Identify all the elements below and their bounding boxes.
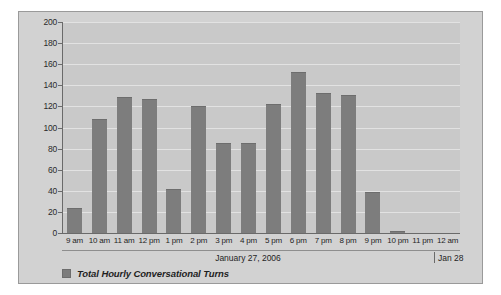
bar[interactable]	[166, 189, 181, 233]
bar-slot	[186, 22, 211, 233]
bar-slot	[410, 22, 435, 233]
bar[interactable]	[316, 93, 331, 233]
y-axis-tick	[58, 22, 62, 23]
x-axis-tick-label: 3 pm	[211, 236, 236, 245]
x-axis-tick-label: 7 pm	[311, 236, 336, 245]
y-axis-tick	[58, 128, 62, 129]
date-axis-rule	[62, 250, 460, 251]
x-axis-tick-label: 10 pm	[385, 236, 410, 245]
y-axis-tick	[58, 170, 62, 171]
x-axis-tick-label: 1 pm	[162, 236, 187, 245]
y-axis-labels: 020406080100120140160180200	[19, 22, 57, 234]
x-axis-tick-label: 12 pm	[137, 236, 162, 245]
bar-slot	[62, 22, 87, 233]
y-axis-tick-label: 160	[43, 59, 57, 69]
bar-slot	[87, 22, 112, 233]
y-axis-tick-label: 20	[48, 207, 57, 217]
y-axis-tick	[58, 233, 62, 234]
x-axis-tick-label: 8 pm	[336, 236, 361, 245]
bar-slot	[286, 22, 311, 233]
chart-panel: 020406080100120140160180200 9 am10 am11 …	[18, 11, 483, 284]
bar[interactable]	[241, 143, 256, 233]
x-axis-tick-label: 10 am	[87, 236, 112, 245]
bar[interactable]	[365, 192, 380, 233]
bar-slot	[435, 22, 460, 233]
x-axis-tick-label: 2 pm	[186, 236, 211, 245]
bar-slot	[162, 22, 187, 233]
date-axis: January 27, 2006 Jan 28	[62, 250, 460, 266]
bar-slot	[385, 22, 410, 233]
bar[interactable]	[67, 208, 82, 233]
y-axis-tick-label: 120	[43, 101, 57, 111]
y-axis-tick	[58, 85, 62, 86]
y-axis-tick-label: 180	[43, 38, 57, 48]
y-axis-tick-label: 80	[48, 144, 57, 154]
x-axis-tick-label: 12 am	[435, 236, 460, 245]
x-axis-tick-label: 9 pm	[361, 236, 386, 245]
y-axis-tick	[58, 191, 62, 192]
bar[interactable]	[117, 97, 132, 233]
date-axis-secondary-label: Jan 28	[438, 253, 464, 263]
date-axis-divider	[434, 252, 435, 263]
bar[interactable]	[216, 143, 231, 233]
bar[interactable]	[291, 72, 306, 233]
legend-label: Total Hourly Conversational Turns	[77, 268, 229, 279]
x-axis-tick-label: 9 am	[62, 236, 87, 245]
x-axis-line	[62, 233, 460, 234]
y-axis-tick	[58, 106, 62, 107]
date-axis-primary-label: January 27, 2006	[62, 253, 434, 263]
bar-slot	[137, 22, 162, 233]
legend-color-swatch	[62, 269, 71, 278]
bar[interactable]	[191, 106, 206, 233]
bar[interactable]	[142, 99, 157, 233]
y-axis-tick	[58, 212, 62, 213]
y-axis-tick	[58, 43, 62, 44]
bar-slot	[336, 22, 361, 233]
y-axis-tick-label: 40	[48, 186, 57, 196]
y-axis-tick-label: 60	[48, 165, 57, 175]
bar-slot	[261, 22, 286, 233]
bar[interactable]	[341, 95, 356, 233]
y-axis-tick-label: 140	[43, 80, 57, 90]
x-axis-tick-label: 4 pm	[236, 236, 261, 245]
bar-slot	[112, 22, 137, 233]
x-axis-tick-label: 6 pm	[286, 236, 311, 245]
y-axis-tick-label: 200	[43, 17, 57, 27]
y-axis-line	[62, 22, 63, 234]
chart-legend: Total Hourly Conversational Turns	[62, 268, 229, 279]
bar-slot	[211, 22, 236, 233]
bar[interactable]	[92, 119, 107, 233]
plot-area	[62, 22, 460, 234]
x-axis-tick-label: 5 pm	[261, 236, 286, 245]
x-axis-labels: 9 am10 am11 am12 pm1 pm2 pm3 pm4 pm5 pm6…	[62, 236, 460, 249]
y-axis-tick-label: 0	[52, 228, 57, 238]
bar[interactable]	[266, 104, 281, 233]
y-axis-tick	[58, 64, 62, 65]
bar-slot	[361, 22, 386, 233]
y-axis-tick	[58, 149, 62, 150]
x-axis-tick-label: 11 am	[112, 236, 137, 245]
bar-slot	[311, 22, 336, 233]
bar-slot	[236, 22, 261, 233]
y-axis-tick-label: 100	[43, 123, 57, 133]
x-axis-tick-label: 11 pm	[410, 236, 435, 245]
